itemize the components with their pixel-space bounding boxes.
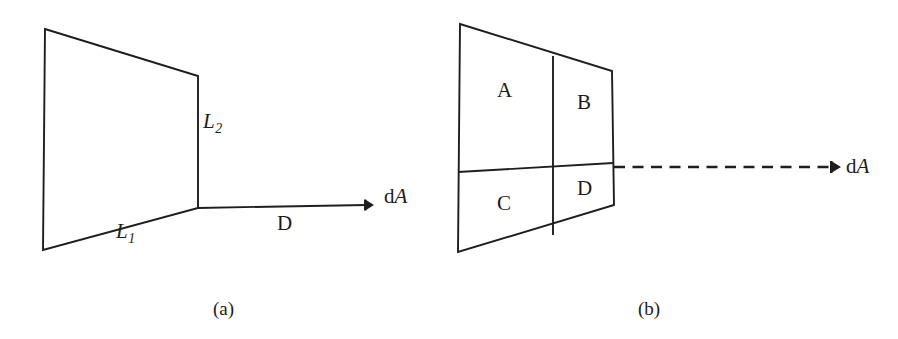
panel-b-surface-outline [458, 24, 614, 252]
panel-a-graphics [43, 29, 374, 250]
panel-a-surface-outline [43, 29, 198, 250]
panel-b-caption: (b) [638, 299, 660, 318]
panel-a-label-area-element-prefix: d [384, 184, 395, 208]
figure-container: L2 L1 D dA (a) A B C D dA (b) [0, 0, 898, 339]
panel-a-caption: (a) [213, 299, 234, 318]
figure-svg [0, 0, 898, 339]
panel-a-label-area-element-symbol: A [395, 184, 408, 208]
panel-a-leader-line [198, 205, 366, 208]
panel-b-graphics [458, 24, 841, 252]
panel-a-label-L2-base: L [203, 109, 215, 133]
panel-a-label-L1-subscript: 1 [128, 231, 135, 246]
panel-b-label-area-element-prefix: d [846, 154, 857, 178]
panel-a-label-L1-base: L [116, 219, 128, 243]
panel-a-label-area-element: dA [384, 186, 407, 207]
panel-b-label-area-element: dA [846, 156, 869, 177]
panel-b-label-quadrant-c: C [497, 193, 511, 214]
panel-b-label-area-element-symbol: A [857, 154, 870, 178]
panel-b-label-quadrant-d: D [577, 178, 592, 199]
panel-b-label-quadrant-a: A [497, 80, 512, 101]
panel-b-horizontal-divider [458, 163, 613, 172]
panel-a-label-L1: L1 [116, 221, 135, 245]
panel-a-label-distance: D [277, 213, 292, 234]
panel-a-label-L2: L2 [203, 111, 222, 135]
panel-a-label-L2-subscript: 2 [215, 121, 222, 136]
panel-b-label-quadrant-b: B [577, 92, 591, 113]
panel-a-arrowhead-icon [366, 200, 374, 210]
panel-b-arrowhead-icon [832, 162, 841, 173]
